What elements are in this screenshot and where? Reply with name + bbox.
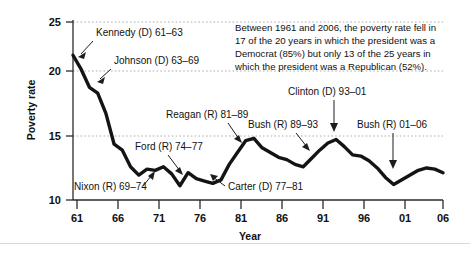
y-tick-label-10: 10 xyxy=(49,194,61,206)
x-tick-label-06: 06 xyxy=(437,212,449,224)
x-tick-label-61: 61 xyxy=(71,212,83,224)
annotation-bush41-label: Bush (R) 89–93 xyxy=(248,119,318,130)
statistics-callout: Between 1961 and 2006, the poverty rate … xyxy=(234,22,436,72)
annotation-reagan-label: Reagan (R) 81–89 xyxy=(166,109,249,120)
figure-bottom-rule xyxy=(0,243,470,244)
annotation-kennedy-leader xyxy=(81,41,93,54)
callout-line-1: Between 1961 and 2006, the poverty rate … xyxy=(235,22,436,33)
y-tick-labels: 25 20 15 10 xyxy=(49,16,61,206)
x-tick-label-96: 96 xyxy=(358,212,370,224)
annotation-bush43-arrowhead xyxy=(389,160,397,169)
x-tick-label-91: 91 xyxy=(317,212,329,224)
y-axis-title: Poverty rate xyxy=(25,79,37,140)
x-tick-label-81: 81 xyxy=(235,212,247,224)
y-tick-label-20: 20 xyxy=(49,65,61,77)
annotation-ford-label: Ford (R) 74–77 xyxy=(135,141,203,152)
annotation-clinton-arrowhead xyxy=(330,123,338,132)
y-tick-label-15: 15 xyxy=(49,130,61,142)
annotation-ford-arrowhead xyxy=(175,167,183,175)
annotation-kennedy-label: Kennedy (D) 61–63 xyxy=(96,27,183,38)
annotation-johnson: Johnson (D) 63–69 xyxy=(97,55,199,84)
x-axis-title: Year xyxy=(239,230,261,242)
annotation-johnson-label: Johnson (D) 63–69 xyxy=(114,55,199,66)
annotation-nixon-label: Nixon (R) 69–74 xyxy=(74,181,147,192)
annotation-johnson-leader xyxy=(100,69,111,79)
annotation-reagan: Reagan (R) 81–89 xyxy=(166,109,249,143)
x-tick-label-71: 71 xyxy=(153,212,165,224)
callout-line-3: Democrat (85%) but only 13 of the 25 yea… xyxy=(235,48,431,59)
annotation-clinton-label: Clinton (D) 93–01 xyxy=(288,86,367,97)
x-tick-label-76: 76 xyxy=(194,212,206,224)
annotation-bush41-arrowhead xyxy=(302,143,310,151)
y-tick-label-25: 25 xyxy=(49,16,61,28)
chart-canvas: 25 20 15 10 61 66 71 76 81 86 91 96 01 0… xyxy=(0,0,470,255)
x-tick-labels: 61 66 71 76 81 86 91 96 01 06 xyxy=(71,212,449,224)
poverty-rate-chart-figure: 25 20 15 10 61 66 71 76 81 86 91 96 01 0… xyxy=(0,0,470,255)
callout-line-2: 17 of the 20 years in which the presiden… xyxy=(235,35,436,46)
annotation-carter-label: Carter (D) 77–81 xyxy=(228,181,303,192)
x-tick-label-66: 66 xyxy=(112,212,124,224)
annotation-bush43-label: Bush (R) 01–06 xyxy=(357,119,427,130)
callout-line-4: which the president was a Republican (52… xyxy=(234,61,427,72)
x-tick-label-01: 01 xyxy=(399,212,411,224)
x-tick-label-86: 86 xyxy=(276,212,288,224)
